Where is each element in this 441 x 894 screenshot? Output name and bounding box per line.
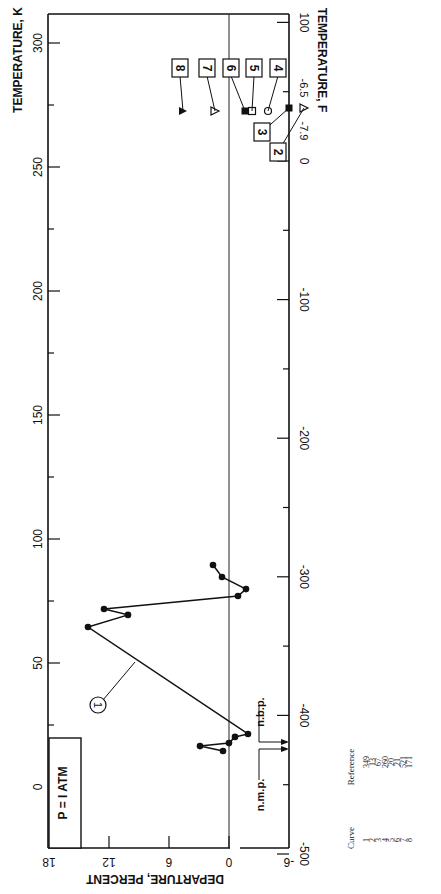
pressure-label: P = I ATM (56, 767, 70, 820)
curve-label: 4 (271, 65, 285, 72)
curve-1-point (245, 731, 252, 738)
curve-label: 2 (271, 149, 285, 156)
curve-1-point (197, 743, 204, 750)
departure-tick-label: 0 (225, 855, 232, 869)
curve-label: 3 (255, 129, 269, 136)
curve-1-point (101, 606, 108, 613)
nbp-label: n.b.p. (254, 697, 266, 726)
k-tick-label: 250 (31, 157, 45, 177)
curve-1-point (232, 734, 239, 741)
k-tick-label: 0 (31, 783, 45, 790)
f-tick-label: -300 (297, 565, 311, 589)
k-tick-label: 300 (31, 33, 45, 53)
curve-header: Curve (346, 827, 356, 849)
axis-ticks (48, 22, 289, 854)
curve-1-point (125, 612, 132, 619)
curve-1-label: 1 (92, 702, 104, 708)
annotations: P = I ATM23456781-6.5-7.9n.b.p.n.m.p. (49, 59, 310, 848)
curve-label: 6 (224, 65, 238, 72)
f-tick-label: -400 (297, 703, 311, 727)
curve-1-point (219, 574, 226, 581)
departure-tick-label: 6 (165, 855, 172, 869)
curve-1-point (85, 624, 92, 631)
curve-label: 7 (200, 65, 214, 72)
departure-tick-label: -6 (283, 855, 294, 869)
curve-1-point (226, 740, 233, 747)
curve-1-point (210, 562, 217, 569)
f-tick-label: 100 (297, 12, 311, 32)
curve-label: 8 (173, 65, 187, 72)
value-label-2: -7.9 (298, 122, 310, 141)
f-tick-label: -200 (297, 426, 311, 450)
k-tick-label: 200 (31, 281, 45, 301)
departure-tick-label: 12 (102, 855, 116, 869)
reference-table: CurveReference13492133674260520621752181… (346, 749, 414, 849)
f-tick-label: 0 (297, 158, 311, 165)
nmp-label: n.m.p. (254, 779, 266, 811)
reference-header: Reference (346, 749, 356, 785)
k-tick-label: 150 (31, 405, 45, 425)
plot-frame (48, 14, 289, 848)
f-tick-label: -100 (297, 288, 311, 312)
curve-1-point (243, 586, 250, 593)
f-axis-title: TEMPERATURE, F (315, 8, 329, 112)
k-tick-label: 100 (31, 529, 45, 549)
k-axis-title: TEMPERATURE, K (11, 7, 25, 113)
k-tick-label: 50 (31, 656, 45, 670)
reference-number: 171 (405, 756, 414, 768)
curve-1-point (220, 748, 227, 755)
curve-number: 8 (405, 838, 414, 842)
f-tick-label: -500 (297, 842, 311, 866)
departure-chart: 050100150200250300-500-400-300-200-10001… (0, 0, 441, 894)
data-series (85, 104, 308, 754)
departure-axis-title: DEPARTURE, PERCENT (85, 872, 223, 886)
curve-1-point (235, 593, 242, 600)
value-label-3: -6.5 (298, 79, 310, 98)
departure-tick-label: 18 (42, 855, 56, 869)
curve-label: 5 (247, 65, 261, 72)
